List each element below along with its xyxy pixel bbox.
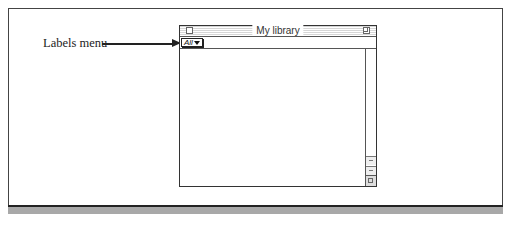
library-list[interactable] <box>180 49 365 186</box>
library-window: My library All <box>179 25 377 187</box>
window-title: My library <box>252 25 303 36</box>
vertical-scrollbar[interactable] <box>365 49 376 186</box>
labels-menu-value: All <box>184 38 193 47</box>
labels-menu[interactable]: All <box>181 38 203 47</box>
triangle-down-icon <box>194 41 200 45</box>
callout-label: Labels menu <box>43 36 107 51</box>
toolbar: All <box>180 37 376 49</box>
callout-line <box>102 43 174 45</box>
title-bar[interactable]: My library <box>180 26 376 37</box>
caption-band <box>8 207 503 214</box>
close-box-icon[interactable] <box>186 27 193 34</box>
scroll-up-button[interactable] <box>366 156 376 165</box>
zoom-box-icon[interactable] <box>363 27 370 34</box>
grow-box-icon[interactable] <box>366 175 376 186</box>
scroll-down-button[interactable] <box>366 166 376 175</box>
